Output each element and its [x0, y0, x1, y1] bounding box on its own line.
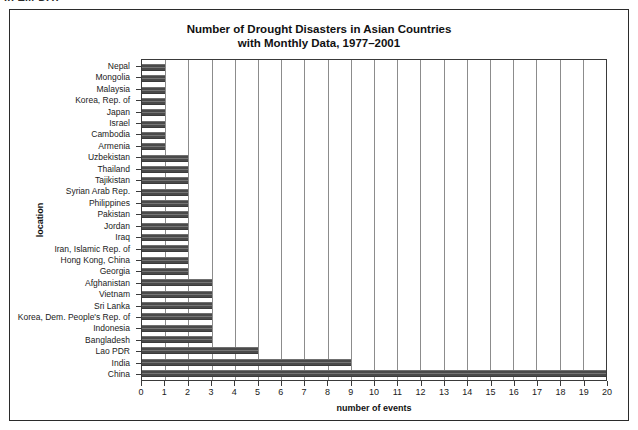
bar-row — [142, 87, 606, 94]
bar-row — [142, 64, 606, 71]
bar-row — [142, 211, 606, 218]
y-axis-label: Georgia — [12, 268, 136, 275]
x-axis-label: 3 — [208, 387, 213, 397]
x-axis-labels: 01234567891011121314151617181920 — [141, 387, 607, 399]
bar-row — [142, 200, 606, 207]
y-axis-label: Bangladesh — [12, 337, 136, 344]
x-axis-label: 2 — [185, 387, 190, 397]
bar-row — [142, 166, 606, 173]
x-axis-label: 13 — [439, 387, 449, 397]
y-axis-label: Tajikistan — [12, 177, 136, 184]
x-axis-label: 17 — [532, 387, 542, 397]
bar-row — [142, 189, 606, 196]
x-axis-label: 0 — [138, 387, 143, 397]
x-axis-tick — [607, 381, 608, 386]
chart-title-line-1: Number of Drought Disasters in Asian Cou… — [187, 23, 452, 35]
y-axis-label: Malaysia — [12, 86, 136, 93]
x-axis-tick — [421, 381, 422, 386]
x-axis-tick — [164, 381, 165, 386]
x-axis-label: 14 — [462, 387, 472, 397]
x-axis-tick — [537, 381, 538, 386]
bar-row — [142, 143, 606, 150]
x-axis-label: 15 — [485, 387, 495, 397]
bar — [142, 177, 188, 184]
bar-row — [142, 268, 606, 275]
x-axis-tick — [234, 381, 235, 386]
x-axis-tick — [281, 381, 282, 386]
plot-wrapper: location NepalMongoliaMalaysiaKorea, Rep… — [141, 59, 607, 381]
y-axis-label: Lao PDR — [12, 348, 136, 355]
bar — [142, 64, 165, 71]
y-axis-label: Syrian Arab Rep. — [12, 188, 136, 195]
bar — [142, 313, 212, 320]
x-axis-tick — [304, 381, 305, 386]
bar-row — [142, 370, 606, 377]
bar — [142, 143, 165, 150]
gridline — [606, 60, 607, 380]
x-axis-label: 10 — [369, 387, 379, 397]
bar-row — [142, 313, 606, 320]
bar — [142, 302, 212, 309]
x-axis-label: 16 — [509, 387, 519, 397]
x-axis-label: 5 — [255, 387, 260, 397]
x-axis-ticks — [141, 381, 607, 386]
x-axis-label: 7 — [302, 387, 307, 397]
x-axis-tick — [397, 381, 398, 386]
x-axis-title: number of events — [141, 403, 607, 413]
x-axis-tick — [560, 381, 561, 386]
bar-row — [142, 257, 606, 264]
bar — [142, 268, 188, 275]
bar-row — [142, 347, 606, 354]
bar — [142, 189, 188, 196]
y-axis-label: Hong Kong, China — [12, 257, 136, 264]
chart-title-line-2: with Monthly Data, 1977–2001 — [10, 36, 628, 50]
bar-row — [142, 359, 606, 366]
x-axis-tick — [211, 381, 212, 386]
bar — [142, 370, 606, 377]
bar — [142, 200, 188, 207]
y-axis-label: Armenia — [12, 143, 136, 150]
y-axis-label: Afghanistan — [12, 280, 136, 287]
bar — [142, 359, 351, 366]
y-axis-label: Vietnam — [12, 291, 136, 298]
y-axis-label: Israel — [12, 120, 136, 127]
x-axis-tick — [188, 381, 189, 386]
bar — [142, 98, 165, 105]
x-axis-tick — [444, 381, 445, 386]
bar-row — [142, 291, 606, 298]
y-axis-label: Indonesia — [12, 325, 136, 332]
bar-row — [142, 245, 606, 252]
y-axis-label: Sri Lanka — [12, 303, 136, 310]
bar-row — [142, 132, 606, 139]
bar — [142, 336, 212, 343]
x-axis-label: 11 — [393, 387, 402, 397]
bar — [142, 291, 212, 298]
x-axis-label: 18 — [555, 387, 565, 397]
bar-row — [142, 234, 606, 241]
bar — [142, 121, 165, 128]
chart-title: Number of Drought Disasters in Asian Cou… — [10, 22, 628, 50]
bar — [142, 211, 188, 218]
bar — [142, 347, 258, 354]
bar — [142, 75, 165, 82]
y-axis-label: Uzbekistan — [12, 154, 136, 161]
bar — [142, 132, 165, 139]
x-axis-label: 20 — [602, 387, 612, 397]
y-axis-label: Jordan — [12, 223, 136, 230]
y-axis-label: Mongolia — [12, 74, 136, 81]
bar-row — [142, 75, 606, 82]
y-axis-label: India — [12, 360, 136, 367]
x-axis-label: 19 — [579, 387, 589, 397]
bar — [142, 279, 212, 286]
bar-row — [142, 121, 606, 128]
x-axis-tick — [584, 381, 585, 386]
x-axis-tick — [514, 381, 515, 386]
caption-fragment: in EM-DAT — [4, 0, 61, 3]
bar — [142, 234, 188, 241]
bar-row — [142, 279, 606, 286]
x-axis-tick — [327, 381, 328, 386]
x-axis-label: 4 — [232, 387, 237, 397]
x-axis-label: 8 — [325, 387, 330, 397]
bar-row — [142, 109, 606, 116]
bar-row — [142, 336, 606, 343]
